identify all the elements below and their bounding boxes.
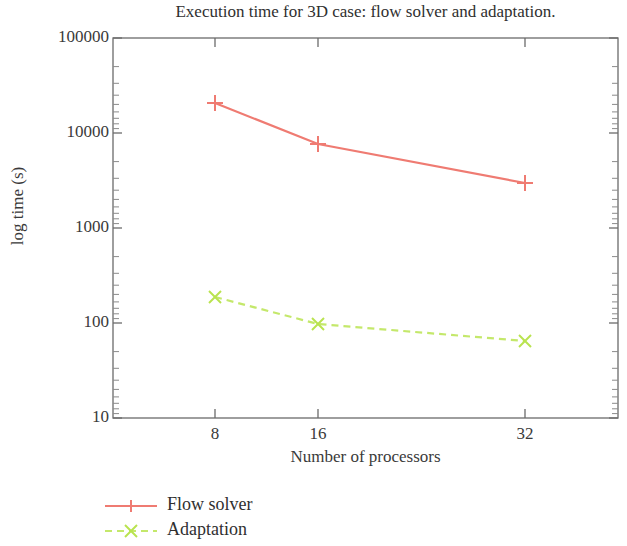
ytick-label-10000: 10000 — [19, 122, 109, 142]
y-major-ticks — [113, 38, 618, 418]
y-axis-label: log time (s) — [8, 126, 28, 286]
axes-frame — [113, 38, 618, 418]
series-adaptation — [209, 291, 531, 347]
x-axis-label: Number of processors — [113, 447, 618, 467]
chart-figure: Execution time for 3D case: flow solver … — [0, 0, 627, 546]
x-ticks — [215, 38, 525, 418]
ytick-label-1000: 1000 — [19, 217, 109, 237]
legend-item-flow-solver: Flow solver — [105, 494, 435, 519]
y-minor-ticks — [113, 67, 618, 414]
legend-item-adaptation: Adaptation — [105, 519, 435, 544]
ytick-label-10: 10 — [19, 407, 109, 427]
legend-label-adaptation: Adaptation — [167, 519, 247, 540]
xtick-label-16: 16 — [288, 424, 348, 444]
legend-label-flow-solver: Flow solver — [167, 494, 253, 515]
chart-legend: Flow solver Adaptation — [105, 494, 435, 544]
ytick-label-100: 100 — [19, 312, 109, 332]
ytick-label-100000: 100000 — [19, 27, 109, 47]
series-adaptation-markers — [209, 291, 531, 347]
xtick-label-32: 32 — [495, 424, 555, 444]
series-flow-solver — [207, 95, 533, 191]
series-flow-solver-markers — [207, 95, 533, 191]
xtick-label-8: 8 — [185, 424, 245, 444]
